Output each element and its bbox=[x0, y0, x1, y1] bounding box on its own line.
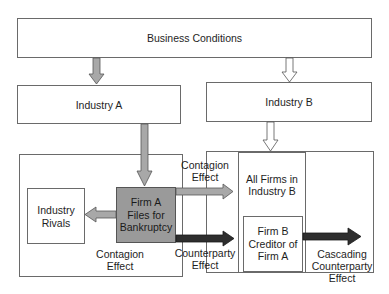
firm-a-label: Firm A Files for Bankruptcy bbox=[117, 196, 175, 234]
arrow-down-gray-icon bbox=[89, 58, 104, 84]
firm-b-label: Firm B Creditor of Firm A bbox=[244, 225, 302, 263]
all-firms-line-1: All Firms in bbox=[239, 173, 305, 185]
industry-a-box: Industry A bbox=[17, 85, 181, 124]
cascading-line-1: Cascading bbox=[302, 248, 382, 260]
firm-a-line-1: Firm A bbox=[117, 196, 175, 209]
business-conditions-label: Business Conditions bbox=[18, 32, 371, 45]
industry-b-box: Industry B bbox=[206, 82, 372, 122]
counterparty-effect-label: Counterparty Effect bbox=[165, 247, 245, 271]
firm-b-box: Firm B Creditor of Firm A bbox=[243, 216, 303, 272]
firm-b-line-3: Firm A bbox=[244, 250, 302, 263]
arrow-down-hollow-b-icon bbox=[263, 122, 278, 151]
industry-rivals-label: Industry Rivals bbox=[28, 204, 84, 229]
industry-rivals-line-2: Rivals bbox=[28, 216, 84, 229]
contagion-rivals-line-1: Contagion bbox=[75, 248, 165, 260]
industry-b-label: Industry B bbox=[207, 96, 371, 109]
firm-a-line-3: Bankruptcy bbox=[117, 221, 175, 234]
contagion-b-line-2: Effect bbox=[170, 171, 240, 183]
counterparty-line-2: Effect bbox=[165, 259, 245, 271]
all-firms-industry-b-label: All Firms in Industry B bbox=[239, 173, 305, 197]
arrow-down-hollow-icon bbox=[282, 58, 297, 82]
counterparty-line-1: Counterparty bbox=[165, 247, 245, 259]
cascading-line-3: Effect bbox=[302, 272, 382, 284]
cascading-counterparty-effect-label: Cascading Counterparty Effect bbox=[302, 248, 382, 284]
contagion-rivals-line-2: Effect bbox=[75, 260, 165, 272]
firm-a-box: Firm A Files for Bankruptcy bbox=[116, 187, 176, 243]
firm-a-line-2: Files for bbox=[117, 209, 175, 222]
contagion-effect-rivals-label: Contagion Effect bbox=[75, 248, 165, 272]
all-firms-line-2: Industry B bbox=[239, 185, 305, 197]
business-conditions-box: Business Conditions bbox=[17, 18, 372, 58]
contagion-effect-b-label: Contagion Effect bbox=[170, 159, 240, 183]
cascading-line-2: Counterparty bbox=[302, 260, 382, 272]
industry-rivals-box: Industry Rivals bbox=[27, 188, 85, 244]
contagion-b-line-1: Contagion bbox=[170, 159, 240, 171]
firm-b-line-2: Creditor of bbox=[244, 238, 302, 251]
industry-rivals-line-1: Industry bbox=[28, 204, 84, 217]
industry-a-label: Industry A bbox=[18, 98, 180, 111]
firm-b-line-1: Firm B bbox=[244, 225, 302, 238]
